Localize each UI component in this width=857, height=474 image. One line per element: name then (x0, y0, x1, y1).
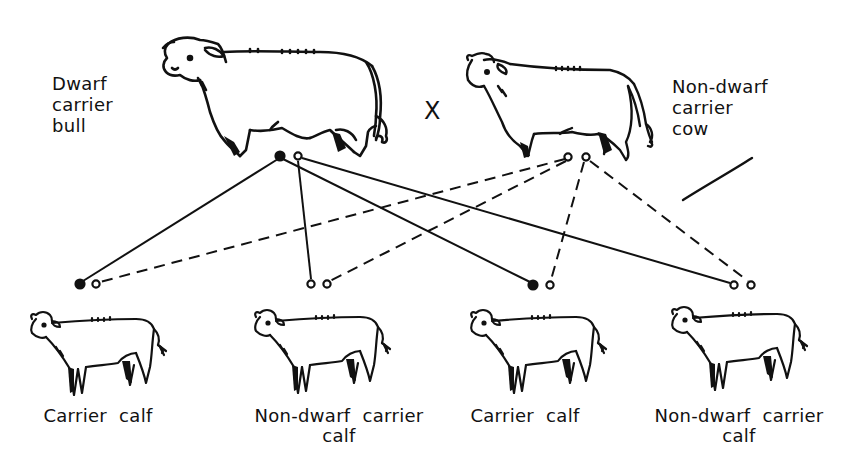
cow-normal-gene-dot-1 (564, 153, 571, 160)
calf-3-normal-gene-dot (546, 281, 553, 288)
bull-front-hoof (224, 136, 240, 156)
calf-4-normal-gene-dot-1 (730, 281, 737, 288)
calf-4-label-line-1: Non-dwarf carrier (636, 406, 842, 426)
calf-3-dwarf-gene-dot (529, 281, 538, 290)
calf-1-label: Carrier calf (18, 406, 178, 426)
calf-1-dwarf-gene-dot (76, 280, 85, 289)
cow-label-line-2: carrier (672, 97, 768, 118)
gene-dots (76, 152, 755, 290)
calf-3-label-line-1: Carrier calf (450, 406, 600, 426)
line-cow-to-calf-1 (100, 159, 565, 282)
bull-normal-gene-dot (294, 152, 301, 159)
bull-label: Dwarf carrier bull (52, 73, 113, 136)
bull-dwarf-gene-dot (276, 152, 285, 161)
cow-label-line-3: cow (672, 118, 768, 139)
cow-front-hoof (520, 142, 530, 158)
line-bull-to-calf-1 (83, 159, 278, 281)
cow-label-line-1: Non-dwarf (672, 76, 768, 97)
solid-inheritance-lines (83, 158, 730, 283)
genetic-cross-diagram: Dwarf carrier bull X Non-dwarf carrier c… (0, 0, 857, 474)
calf-4-label: Non-dwarf carrier calf (636, 406, 842, 446)
calf-2-normal-gene-dot-1 (307, 280, 314, 287)
calf-2-label-line-1: Non-dwarf carrier (236, 406, 442, 426)
cow-hind-hoof (598, 132, 612, 154)
calf-2-label: Non-dwarf carrier calf (236, 406, 442, 446)
line-cow-to-calf-2 (330, 161, 566, 281)
bull-illustration (163, 38, 387, 156)
line-bull-to-calf-2 (298, 161, 311, 279)
bull-label-line-3: bull (52, 115, 113, 136)
stray-pen-stroke (683, 158, 752, 200)
calf-3-label: Carrier calf (450, 406, 600, 426)
calf-1-normal-gene-dot (92, 280, 99, 287)
calf-3-illustration (471, 310, 606, 393)
diagram-canvas (0, 0, 857, 474)
cross-symbol: X (424, 97, 440, 125)
calf-4-normal-gene-dot-2 (747, 281, 754, 288)
calf-2-normal-gene-dot-2 (323, 280, 330, 287)
cow-illustration (467, 53, 652, 160)
calf-2-illustration (255, 310, 390, 393)
calf-4-illustration (672, 307, 807, 390)
bull-label-line-2: carrier (52, 94, 113, 115)
line-cow-to-calf-3 (551, 162, 584, 280)
calf-2-label-line-2: calf (236, 426, 442, 446)
cow-label: Non-dwarf carrier cow (672, 76, 768, 139)
calf-4-label-line-2: calf (636, 426, 842, 446)
dashed-inheritance-lines (100, 159, 748, 282)
line-bull-to-calf-4 (302, 158, 730, 283)
cow-normal-gene-dot-2 (582, 153, 589, 160)
calf-1-label-line-1: Carrier calf (18, 406, 178, 426)
line-cow-to-calf-4 (590, 161, 748, 281)
calf-1-illustration (31, 312, 166, 395)
bull-label-line-1: Dwarf (52, 73, 113, 94)
